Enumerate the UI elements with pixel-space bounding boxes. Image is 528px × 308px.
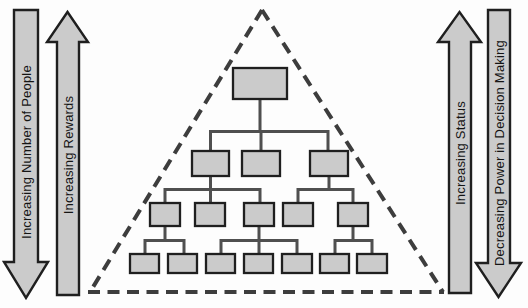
arrow-decreasing-power: Decreasing Power in Decision Making bbox=[476, 10, 521, 297]
connector-line bbox=[335, 226, 372, 254]
org-box-l2-3 bbox=[310, 151, 348, 176]
org-box-l3-5 bbox=[338, 203, 368, 226]
org-box-l3-1 bbox=[150, 203, 180, 226]
org-box-l4-3 bbox=[206, 254, 235, 273]
arrow-increasing-number-of-people: Increasing Number of People bbox=[4, 10, 48, 298]
org-box-l4-2 bbox=[168, 254, 197, 273]
connector-line bbox=[221, 226, 297, 254]
arrow-label: Increasing Rewards bbox=[61, 95, 76, 214]
org-box-l3-2 bbox=[195, 203, 225, 226]
connector-line bbox=[211, 99, 329, 151]
connector-line bbox=[145, 226, 184, 254]
connector-line bbox=[298, 176, 353, 203]
triangle-right-side bbox=[262, 10, 443, 292]
arrow-increasing-rewards: Increasing Rewards bbox=[47, 12, 88, 295]
org-box-l4-5 bbox=[282, 254, 312, 273]
org-box-l3-4 bbox=[283, 203, 313, 226]
triangle-left-side bbox=[90, 10, 262, 292]
org-box-l4-7 bbox=[357, 254, 387, 273]
arrow-label: Increasing Number of People bbox=[19, 65, 34, 239]
diagram-canvas: Increasing Number of People Increasing R… bbox=[0, 0, 528, 308]
arrow-increasing-status: Increasing Status bbox=[438, 12, 481, 293]
connector-line bbox=[165, 176, 260, 203]
arrow-label: Decreasing Power in Decision Making bbox=[492, 40, 507, 266]
arrow-label: Increasing Status bbox=[453, 101, 468, 205]
org-box-l2-1 bbox=[192, 151, 229, 176]
org-box-l1 bbox=[233, 68, 287, 99]
org-box-l4-1 bbox=[130, 254, 159, 273]
org-box-l4-6 bbox=[320, 254, 349, 273]
pyramid-diagram: Increasing Number of People Increasing R… bbox=[0, 0, 528, 308]
org-box-l2-2 bbox=[242, 151, 280, 176]
org-box-l3-3 bbox=[244, 203, 274, 226]
org-box-l4-4 bbox=[244, 254, 273, 273]
